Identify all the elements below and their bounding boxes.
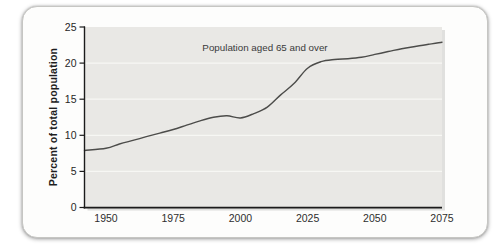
series-annotation-label: Population aged 65 and over bbox=[202, 42, 328, 53]
x-tick-label: 2000 bbox=[229, 212, 253, 224]
y-tick-label: 15 bbox=[65, 93, 77, 105]
y-tick-label: 5 bbox=[71, 165, 77, 177]
y-tick-label: 0 bbox=[71, 201, 77, 213]
population-chart: 0510152025 195019752000202520502075 Popu… bbox=[0, 0, 493, 249]
y-tick-label: 20 bbox=[65, 57, 77, 69]
y-axis-title: Percent of total population bbox=[47, 48, 59, 186]
y-tick-label: 10 bbox=[65, 129, 77, 141]
x-tick-label: 2025 bbox=[296, 212, 320, 224]
x-tick-label: 2050 bbox=[363, 212, 387, 224]
x-tick-label: 1975 bbox=[162, 212, 186, 224]
x-tick-label: 1950 bbox=[94, 212, 118, 224]
x-axis-ticks: 195019752000202520502075 bbox=[94, 212, 454, 224]
x-tick-label: 2075 bbox=[430, 212, 454, 224]
y-axis-ticks: 0510152025 bbox=[65, 21, 85, 214]
y-tick-label: 25 bbox=[65, 21, 77, 33]
plot-area bbox=[85, 27, 443, 208]
